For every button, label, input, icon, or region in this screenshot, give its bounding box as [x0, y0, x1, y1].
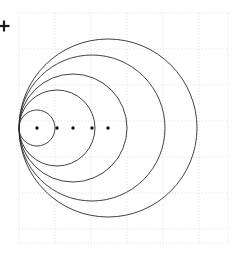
center-dots-layer [35, 126, 109, 129]
dot-4 [90, 126, 93, 129]
figure-canvas [0, 0, 248, 257]
origin-cross-marker [0, 21, 10, 32]
dot-3 [71, 126, 74, 129]
coaxial-circles-diagram [0, 0, 248, 257]
dot-1 [35, 126, 38, 129]
dot-2 [55, 126, 58, 129]
dot-5 [106, 126, 109, 129]
